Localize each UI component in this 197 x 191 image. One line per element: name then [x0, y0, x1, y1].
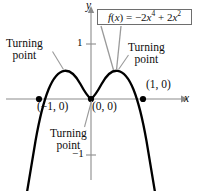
plot-canvas [0, 0, 197, 191]
turning-point-label-left: Turning point [6, 38, 43, 61]
turning-right-line1: Turning [128, 42, 165, 54]
leader-formula-right [117, 26, 122, 70]
y-tick-label-one: 1 [77, 37, 83, 48]
y-axis-label: y [86, 0, 91, 12]
turning-point-label-right: Turning point [128, 42, 165, 65]
leader-formula-left [101, 26, 114, 70]
marker-one [140, 96, 146, 102]
turning-left-line2: point [6, 50, 43, 62]
point-label-origin: (0, 0) [92, 101, 117, 113]
leader-turning-right [119, 55, 129, 70]
turning-right-line2: point [128, 54, 165, 66]
x-axis-label: x [184, 93, 189, 105]
point-label-negative-one: (−1, 0) [37, 101, 68, 113]
y-axis [88, 6, 94, 180]
formula-callout-box: f(x) = −2x4 + 2x2 [97, 9, 192, 25]
formula-text: f(x) = −2x4 + 2x2 [108, 11, 181, 23]
leader-turning-left [53, 52, 64, 70]
y-tick-label-negative-one: −1 [72, 148, 84, 159]
point-label-one: (1, 0) [146, 79, 171, 91]
turning-bottom-line1: Turning [50, 128, 87, 140]
turning-left-line1: Turning [6, 38, 43, 50]
polynomial-graph-figure: f(x) = −2x4 + 2x2 Turning point Turning … [0, 0, 197, 191]
